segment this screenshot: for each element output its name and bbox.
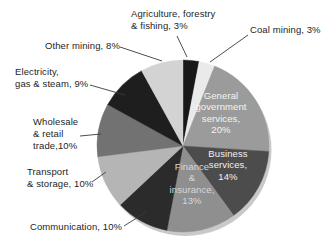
callout-label-transport: Transport & storage, 10%	[27, 166, 93, 189]
slice-label-general-government: General government services, 20%	[175, 90, 267, 135]
slice-label-finance-insurance: Finance & insurance, 13%	[147, 161, 237, 206]
callout-label-electricity: Electricity, gas & steam, 9%	[15, 66, 88, 89]
callout-label-communication: Communication, 10%	[30, 221, 122, 233]
pie-chart-figure: Agriculture, forestry & fishing, 3% Coal…	[0, 0, 334, 248]
leader-line	[120, 47, 162, 61]
callout-label-other-mining: Other mining, 8%	[45, 40, 120, 52]
leader-line	[210, 35, 248, 62]
callout-label-coal-mining: Coal mining, 3%	[250, 24, 321, 36]
callout-label-wholesale: Wholesale & retail trade,10%	[33, 116, 78, 152]
leader-line	[177, 36, 187, 57]
callout-label-agriculture: Agriculture, forestry & fishing, 3%	[131, 8, 215, 31]
